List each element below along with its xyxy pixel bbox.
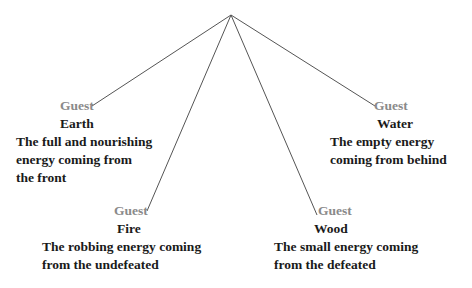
element-label: Earth: [16, 115, 186, 133]
description-line: The empty energy: [330, 133, 470, 151]
node-fire: Guest Fire The robbing energy coming fro…: [42, 202, 222, 274]
role-label: Guest: [42, 202, 222, 220]
element-label: Fire: [42, 220, 222, 238]
role-label: Guest: [274, 202, 454, 220]
description-line: from the undefeated: [42, 256, 222, 274]
line-earth: [92, 15, 231, 106]
description-line: energy coming from: [16, 151, 186, 169]
role-label: Guest: [16, 97, 186, 115]
description-line: from the defeated: [274, 256, 454, 274]
role-label: Guest: [330, 97, 470, 115]
description-line: coming from behind: [330, 151, 470, 169]
element-label: Water: [330, 115, 470, 133]
element-label: Wood: [274, 220, 454, 238]
node-wood: Guest Wood The small energy coming from …: [274, 202, 454, 274]
line-water: [231, 15, 375, 106]
description-line: The full and nourishing: [16, 133, 186, 151]
description-line: The small energy coming: [274, 238, 454, 256]
node-earth: Guest Earth The full and nourishing ener…: [16, 97, 186, 187]
description-line: The robbing energy coming: [42, 238, 222, 256]
node-water: Guest Water The empty energy coming from…: [330, 97, 470, 169]
line-wood: [231, 15, 317, 215]
description-line: the front: [16, 169, 186, 187]
